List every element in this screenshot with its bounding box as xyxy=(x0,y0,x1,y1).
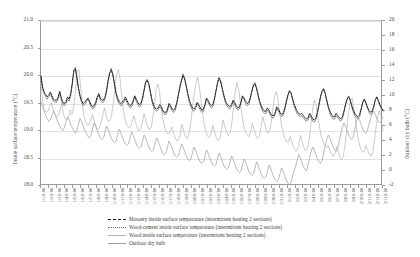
legend-line-icon xyxy=(108,227,126,228)
x-axis-tick-label: 1/6 0:00 xyxy=(81,188,85,202)
x-axis-tick-label: 1/17 0:00 xyxy=(169,188,173,204)
x-axis-tick-mark xyxy=(366,185,367,188)
x-axis-tick-label: 2/12 0:00 xyxy=(376,188,380,204)
y-axis-right-tick-label: -2 xyxy=(386,182,413,187)
x-axis-tick-label: 1/12 0:00 xyxy=(129,188,133,204)
x-axis-tick-label: 1/20 0:00 xyxy=(193,188,197,204)
x-axis-tick-label: 1/11 0:00 xyxy=(121,188,125,204)
x-axis-tick-label: 2/4 0:00 xyxy=(312,188,316,202)
x-axis-tick-label: 1/2 0:00 xyxy=(50,188,54,202)
x-axis-tick-label: 2/8 0:00 xyxy=(344,188,348,202)
x-axis-tick-mark xyxy=(199,185,200,188)
legend-line-icon xyxy=(108,235,126,236)
legend-item[interactable]: Wood inside surface temperature (intermi… xyxy=(108,231,368,239)
x-axis-tick-label: 1/14 0:00 xyxy=(145,188,149,204)
y-axis-right-tick-label: 8 xyxy=(386,107,413,112)
x-axis-tick-label: 1/30 0:00 xyxy=(272,188,276,204)
x-axis-tick-label: 2/3 0:00 xyxy=(304,188,308,202)
legend-item[interactable]: Outdoor dry bulb xyxy=(108,239,368,247)
y-axis-right-tick-label: 18 xyxy=(386,32,413,37)
y-axis-right-tick-label: 4 xyxy=(386,137,413,142)
x-axis-tick-mark xyxy=(374,185,375,188)
x-axis-tick-label: 1/26 0:00 xyxy=(240,188,244,204)
x-axis-tick-label: 2/11 0:00 xyxy=(368,188,372,204)
legend-item[interactable]: Wood-cement inside surface temperature (… xyxy=(108,223,368,231)
x-axis-tick-label: 1/29 0:00 xyxy=(264,188,268,204)
x-axis-tick-label: 2/13 0:00 xyxy=(384,188,388,204)
legend: Masonry inside surface temperature (inte… xyxy=(108,215,368,247)
y-axis-left-tick-label: 20.0 xyxy=(0,72,36,77)
x-axis-tick-label: 1/19 0:00 xyxy=(185,188,189,204)
y-axis-left-tick-label: 20.5 xyxy=(0,45,36,50)
x-axis-tick-label: 2/2 0:00 xyxy=(296,188,300,202)
x-axis-tick-label: 1/21 0:00 xyxy=(201,188,205,204)
x-axis-tick-label: 2/9 0:00 xyxy=(352,188,356,202)
x-axis-tick-label: 1/23 0:00 xyxy=(217,188,221,204)
x-axis-tick-label: 2/1 0:00 xyxy=(288,188,292,202)
x-axis-tick-label: 1/7 0:00 xyxy=(89,188,93,202)
x-axis-tick-label: 1/31 0:00 xyxy=(280,188,284,204)
x-axis-tick-label: 1/27 0:00 xyxy=(248,188,252,204)
y-axis-right-tick-label: 14 xyxy=(386,62,413,67)
series-lines xyxy=(41,21,383,186)
x-axis-tick-label: 1/13 0:00 xyxy=(137,188,141,204)
x-axis-tick-mark xyxy=(358,185,359,188)
legend-line-icon xyxy=(108,219,126,220)
y-axis-left-tick-label: 19.5 xyxy=(0,100,36,105)
legend-item[interactable]: Masonry inside surface temperature (inte… xyxy=(108,215,368,223)
y-axis-left-tick-label: 18.0 xyxy=(0,182,36,187)
x-axis-tick-mark xyxy=(40,185,41,188)
x-axis-tick-label: 1/10 0:00 xyxy=(113,188,117,204)
x-axis-tick-mark xyxy=(207,185,208,188)
y-axis-right-tick-label: 10 xyxy=(386,92,413,97)
x-axis-tick-mark xyxy=(183,185,184,188)
x-axis-tick-label: 1/22 0:00 xyxy=(209,188,213,204)
x-axis-tick-label: 2/6 0:00 xyxy=(328,188,332,202)
x-axis-tick-label: 1/5 0:00 xyxy=(73,188,77,202)
y-axis-left-tick-label: 18.5 xyxy=(0,155,36,160)
y-axis-right-tick-label: 12 xyxy=(386,77,413,82)
x-axis-tick-mark xyxy=(48,185,49,188)
x-axis-tick-mark xyxy=(56,185,57,188)
y-axis-right-tick-label: 6 xyxy=(386,122,413,127)
legend-item-label: Outdoor dry bulb xyxy=(129,240,165,246)
y-axis-left-tick-label: 21.0 xyxy=(0,17,36,22)
x-axis-tick-label: 2/7 0:00 xyxy=(336,188,340,202)
x-axis-tick-label: 1/24 0:00 xyxy=(225,188,229,204)
x-axis-tick-label: 2/5 0:00 xyxy=(320,188,324,202)
x-axis-tick-label: 1/15 0:00 xyxy=(153,188,157,204)
x-axis-tick-label: 1/8 0:00 xyxy=(97,188,101,202)
x-axis-tick-label: 1/9 0:00 xyxy=(105,188,109,202)
x-axis-tick-mark xyxy=(215,185,216,188)
y-axis-right-tick-label: 16 xyxy=(386,47,413,52)
x-axis-tick-label: 1/16 0:00 xyxy=(161,188,165,204)
x-axis-tick-label: 1/25 0:00 xyxy=(232,188,236,204)
x-axis-tick-mark xyxy=(382,185,383,188)
x-axis-tick-label: 1/18 0:00 xyxy=(177,188,181,204)
legend-item-label: Wood-cement inside surface temperature (… xyxy=(129,224,282,230)
x-axis-tick-label: 2/10 0:00 xyxy=(360,188,364,204)
y-axis-right-tick-label: 0 xyxy=(386,167,413,172)
y-axis-right-tick-label: 2 xyxy=(386,152,413,157)
chart-container: Inside surface temperature (°C) Outdoor … xyxy=(0,0,420,257)
y-axis-right-tick-label: 20 xyxy=(386,17,413,22)
y-axis-left-tick-label: 19.0 xyxy=(0,127,36,132)
series-line xyxy=(41,69,383,120)
legend-line-icon xyxy=(108,243,126,244)
x-axis-tick-label: 1/1 0:00 xyxy=(42,188,46,202)
x-axis-tick-label: 1/4 0:00 xyxy=(65,188,69,202)
x-axis-tick-mark xyxy=(191,185,192,188)
x-axis-tick-label: 1/28 0:00 xyxy=(256,188,260,204)
legend-item-label: Wood inside surface temperature (intermi… xyxy=(129,232,266,238)
x-axis-tick-mark xyxy=(223,185,224,188)
x-axis-tick-label: 1/3 0:00 xyxy=(58,188,62,202)
legend-item-label: Masonry inside surface temperature (inte… xyxy=(129,216,272,222)
plot-area xyxy=(40,20,382,185)
